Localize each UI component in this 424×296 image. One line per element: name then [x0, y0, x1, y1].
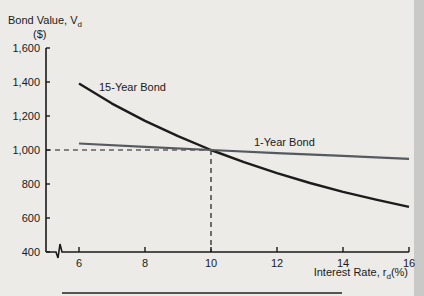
series-lines [79, 83, 409, 207]
y-axis-title-text: Bond Value, Vd [8, 14, 82, 29]
y-tick-label: 1,400 [12, 76, 40, 88]
x-axis-line [46, 244, 409, 258]
x-axis-title: Interest Rate, rd(%) [314, 266, 408, 281]
y-tick-label: 1,200 [12, 110, 40, 122]
bond-value-chart: Bond Value, Vd ($) 4006008001,0001,2001,… [0, 0, 424, 296]
x-tick-label: 12 [271, 257, 283, 269]
series-line-1-year-bond [79, 144, 409, 159]
y-tick-label: 600 [22, 212, 40, 224]
series-label-15-year-bond: 15-Year Bond [99, 81, 166, 93]
y-tick-label: 1,600 [12, 42, 40, 54]
y-tick-label: 400 [22, 246, 40, 258]
x-tick-label: 8 [142, 257, 148, 269]
x-tick-label: 10 [205, 257, 217, 269]
y-tick-label: 1,000 [12, 144, 40, 156]
reference-lines [46, 150, 211, 252]
x-tick-label: 6 [76, 257, 82, 269]
y-axis-unit: ($) [33, 28, 46, 40]
series-label-1-year-bond: 1-Year Bond [254, 136, 315, 148]
y-tick-label: 800 [22, 178, 40, 190]
y-axis-title: Bond Value, Vd ($) [8, 14, 82, 40]
